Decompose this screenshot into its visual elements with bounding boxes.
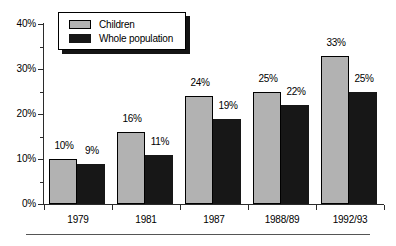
bar-value-label: 9%	[76, 146, 108, 156]
x-axis-category-label: 1992/93	[316, 214, 384, 225]
bar-value-label: 25%	[348, 74, 380, 84]
bar-whole-population-1979	[77, 164, 105, 205]
legend-item-children: Children	[69, 18, 135, 31]
bar-children-1988-89	[253, 92, 281, 205]
x-axis-tick	[316, 205, 317, 210]
y-axis-labels: 0%10%20%30%40%	[0, 0, 36, 246]
x-axis-category-label: 1988/89	[248, 214, 316, 225]
bar-whole-population-1988-89	[281, 105, 309, 204]
y-axis-tick-label: 30%	[2, 64, 36, 74]
footer-divider	[26, 234, 370, 235]
bar-whole-population-1987	[213, 119, 241, 205]
bar-children-1981	[117, 132, 145, 204]
x-axis-tick	[248, 205, 249, 210]
bar-value-label: 24%	[184, 78, 216, 88]
bar-value-label: 16%	[116, 114, 148, 124]
y-axis-tick-label: 40%	[2, 19, 36, 29]
legend-item-whole-population: Whole population	[69, 32, 173, 45]
legend-label-children: Children	[99, 19, 135, 30]
bar-value-label: 25%	[252, 74, 284, 84]
x-axis-category-label: 1987	[180, 214, 248, 225]
legend-swatch-icon-whole-population	[69, 34, 91, 43]
x-axis-tick	[180, 205, 181, 210]
x-axis-tick	[44, 205, 45, 210]
bar-children-1979	[49, 159, 77, 204]
bar-value-label: 11%	[144, 137, 176, 147]
bar-whole-population-1992-93	[349, 92, 377, 205]
y-axis-tick-label: 20%	[2, 109, 36, 119]
x-axis-category-label: 1979	[44, 214, 112, 225]
bar-value-label: 22%	[280, 87, 312, 97]
legend-label-whole-population: Whole population	[99, 33, 173, 44]
bar-children-1987	[185, 96, 213, 204]
y-axis-tick-label: 0%	[2, 199, 36, 209]
legend-swatch-icon-children	[69, 20, 91, 29]
bar-value-label: 33%	[320, 38, 352, 48]
y-axis-tick-label: 10%	[2, 154, 36, 164]
x-axis-line	[43, 204, 384, 205]
x-axis-tick	[112, 205, 113, 210]
x-axis-tick	[384, 205, 385, 210]
bar-value-label: 19%	[212, 101, 244, 111]
bar-chart: 0%10%20%30%40% 10%9%16%11%24%19%25%22%33…	[0, 0, 396, 246]
x-axis-category-label: 1981	[112, 214, 180, 225]
bar-whole-population-1981	[145, 155, 173, 205]
bar-children-1992-93	[321, 56, 349, 205]
chart-legend: Children Whole population	[58, 12, 186, 50]
